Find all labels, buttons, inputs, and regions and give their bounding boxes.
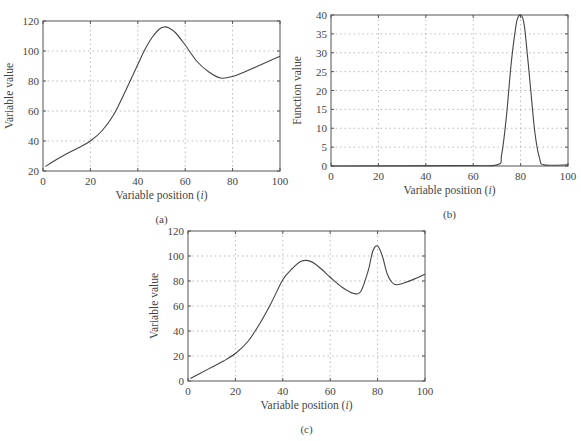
x-tick-label: 40 — [277, 385, 289, 397]
chart-a-variable-value: 02040608010020406080100120Variable posit… — [3, 15, 289, 226]
y-tick-label: 0 — [322, 160, 328, 172]
y-tick-label: 40 — [316, 9, 328, 21]
x-tick-label: 60 — [468, 170, 480, 182]
y-tick-label: 0 — [179, 375, 185, 387]
y-tick-label: 100 — [23, 45, 40, 57]
y-tick-label: 25 — [316, 66, 328, 78]
x-tick-label: 80 — [515, 170, 527, 182]
grid-lines — [188, 231, 425, 381]
y-tick-label: 30 — [316, 47, 328, 59]
x-tick-label: 80 — [227, 175, 239, 187]
x-tick-label: 0 — [40, 175, 46, 187]
y-tick-label: 80 — [173, 275, 185, 287]
x-tick-label: 20 — [373, 170, 385, 182]
x-tick-label: 40 — [132, 175, 144, 187]
y-tick-label: 15 — [316, 103, 328, 115]
x-tick-label: 60 — [180, 175, 192, 187]
grid-lines — [43, 21, 280, 171]
y-tick-label: 100 — [168, 250, 185, 262]
x-tick-label: 100 — [560, 170, 577, 182]
y-tick-label: 60 — [173, 300, 185, 312]
x-tick-label: 20 — [230, 385, 242, 397]
x-tick-label: 0 — [328, 170, 334, 182]
x-tick-label: 100 — [417, 385, 434, 397]
grid-lines — [331, 15, 568, 166]
y-tick-label: 35 — [316, 28, 328, 40]
y-tick-label: 40 — [28, 135, 40, 147]
chart-b-function-value: 0204060801000510152025303540Variable pos… — [291, 9, 577, 221]
x-tick-label: 0 — [185, 385, 191, 397]
y-tick-label: 60 — [28, 105, 40, 117]
y-tick-label: 10 — [316, 122, 328, 134]
y-tick-label: 5 — [322, 141, 328, 153]
subfigure-caption: (b) — [443, 208, 456, 221]
x-tick-label: 20 — [85, 175, 97, 187]
subfigure-caption: (c) — [300, 423, 313, 436]
x-tick-label: 60 — [325, 385, 337, 397]
figure: 02040608010020406080100120Variable posit… — [0, 0, 581, 441]
y-tick-label: 20 — [28, 165, 40, 177]
y-tick-label: 40 — [173, 325, 185, 337]
x-tick-label: 100 — [272, 175, 289, 187]
x-axis-label: Variable position (i) — [261, 399, 353, 412]
x-axis-label: Variable position (i) — [404, 184, 496, 197]
y-axis-label: Variable value — [148, 273, 160, 339]
x-axis-ticks: 020406080100 — [40, 21, 289, 187]
y-tick-label: 20 — [173, 350, 185, 362]
data-line — [45, 27, 280, 167]
y-axis-label: Function value — [291, 56, 303, 125]
data-line — [190, 246, 425, 379]
y-axis-label: Variable value — [3, 63, 15, 129]
chart-c-variable-value: 020406080100020406080100120Variable posi… — [148, 225, 434, 436]
subfigure-caption: (a) — [155, 213, 168, 226]
y-tick-label: 20 — [316, 85, 328, 97]
y-tick-label: 80 — [28, 75, 40, 87]
y-tick-label: 120 — [168, 225, 185, 237]
x-tick-label: 80 — [372, 385, 384, 397]
x-axis-label: Variable position (i) — [116, 189, 208, 202]
plot-frame — [43, 21, 280, 171]
y-tick-label: 120 — [23, 15, 40, 27]
x-tick-label: 40 — [420, 170, 432, 182]
